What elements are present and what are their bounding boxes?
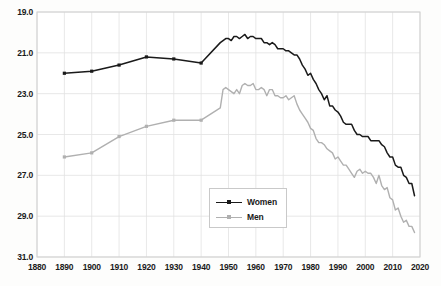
- legend-swatch-men-icon: [216, 212, 242, 222]
- y-tick-label: 21.0: [0, 48, 33, 58]
- chart-container: 19.021.023.025.027.029.031.0 18801890190…: [0, 0, 441, 286]
- y-tick-label: 25.0: [0, 130, 33, 140]
- x-tick-label: 2020: [404, 262, 436, 272]
- y-tick-label: 19.0: [0, 7, 33, 17]
- y-tick-label: 29.0: [0, 211, 33, 221]
- legend-item-women[interactable]: Women: [216, 196, 277, 208]
- legend-label-men: Men: [247, 212, 264, 222]
- legend-label-women: Women: [247, 197, 277, 207]
- legend-swatch-women-icon: [216, 197, 242, 207]
- chart-legend: Women Men: [209, 188, 287, 228]
- legend-item-men[interactable]: Men: [216, 211, 264, 223]
- y-tick-label: 31.0: [0, 252, 33, 262]
- chart-plot: [0, 0, 441, 286]
- y-tick-label: 27.0: [0, 170, 33, 180]
- y-tick-label: 23.0: [0, 89, 33, 99]
